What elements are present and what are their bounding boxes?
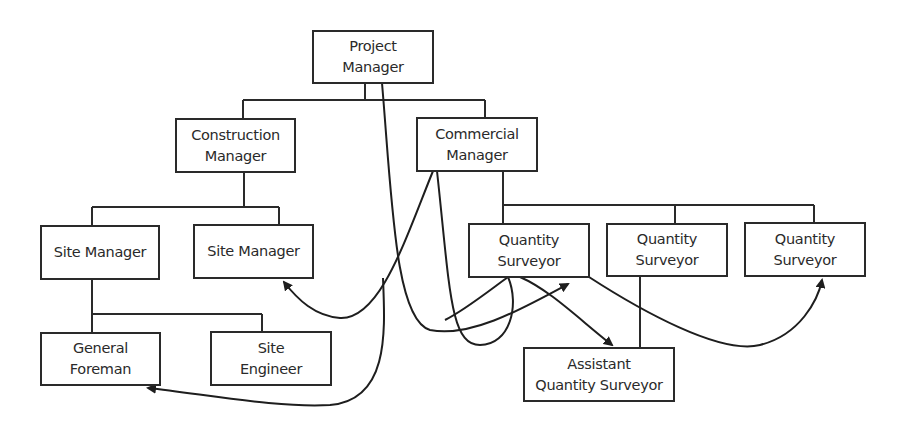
- node-commercial-manager: Commercial Manager: [416, 117, 538, 172]
- node-quantity-surveyor-1: Quantity Surveyor: [468, 223, 590, 278]
- node-label: Assistant: [567, 354, 630, 375]
- node-quantity-surveyor-3: Quantity Surveyor: [744, 222, 866, 277]
- node-label: Quantity: [637, 229, 697, 250]
- node-construction-manager: Construction Manager: [175, 118, 296, 173]
- node-label: Construction: [191, 125, 280, 146]
- node-label: Project: [349, 36, 397, 57]
- node-label: Site: [258, 338, 285, 359]
- node-project-manager: Project Manager: [312, 30, 434, 84]
- node-label: General: [73, 338, 128, 359]
- node-label: Engineer: [240, 359, 302, 380]
- node-label: Site Manager: [207, 241, 299, 262]
- node-assistant-quantity-surveyor: Assistant Quantity Surveyor: [523, 347, 675, 402]
- node-quantity-surveyor-2: Quantity Surveyor: [606, 223, 728, 277]
- organisation-chart: Project Manager Construction Manager Com…: [0, 0, 897, 447]
- node-label: Site Manager: [54, 242, 146, 263]
- node-label: Foreman: [70, 359, 131, 380]
- node-site-manager-2: Site Manager: [193, 224, 314, 279]
- node-label: Manager: [205, 146, 266, 167]
- node-label: Quantity: [499, 230, 559, 251]
- node-label: Surveyor: [636, 250, 699, 271]
- node-label: Surveyor: [774, 250, 837, 271]
- node-general-foreman: General Foreman: [40, 332, 161, 386]
- node-label: Manager: [342, 57, 403, 78]
- node-site-manager-1: Site Manager: [40, 225, 160, 280]
- node-label: Manager: [446, 145, 507, 166]
- node-label: Surveyor: [498, 251, 561, 272]
- node-label: Commercial: [435, 124, 519, 145]
- node-site-engineer: Site Engineer: [210, 331, 332, 386]
- node-label: Quantity: [775, 229, 835, 250]
- node-label: Quantity Surveyor: [535, 375, 662, 396]
